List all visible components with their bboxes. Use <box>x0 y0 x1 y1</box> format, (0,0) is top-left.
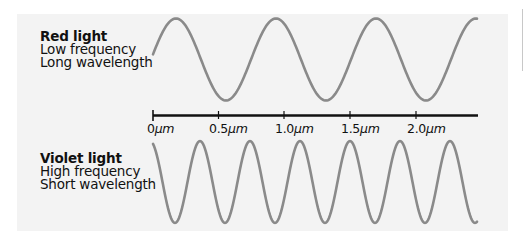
tick-value: 1.0 <box>275 121 294 136</box>
red-light-wave <box>153 19 477 101</box>
tick-label-1: 0.5μm <box>209 121 248 136</box>
tick-label-2: 1.0μm <box>275 121 314 136</box>
tick-value: 1.5 <box>341 121 360 136</box>
tick-unit: μm <box>426 121 446 136</box>
violet-light-wave <box>153 141 477 223</box>
tick-unit: μm <box>294 121 314 136</box>
tick-label-3: 1.5μm <box>341 121 380 136</box>
diagram-canvas: Red light Low frequency Long wavelength … <box>0 0 527 249</box>
tick-unit: μm <box>360 121 380 136</box>
wavelength-axis <box>153 110 478 121</box>
tick-value: 0.5 <box>209 121 228 136</box>
wave-diagram <box>0 0 527 249</box>
tick-label-0: 0μm <box>147 121 174 136</box>
tick-label-4: 2.0μm <box>407 121 446 136</box>
tick-unit: μm <box>155 121 175 136</box>
tick-value: 0 <box>147 121 155 136</box>
tick-unit: μm <box>228 121 248 136</box>
tick-value: 2.0 <box>407 121 426 136</box>
